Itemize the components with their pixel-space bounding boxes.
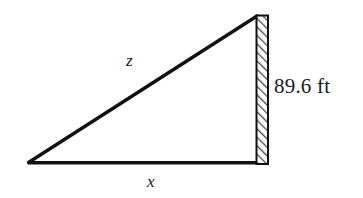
hatched-wall — [257, 16, 269, 165]
figure-container: z x 89.6 ft — [0, 0, 363, 198]
hypotenuse-label: z — [126, 52, 133, 69]
hypotenuse-line — [29, 16, 258, 163]
height-measurement-label: 89.6 ft — [274, 76, 330, 97]
base-label: x — [147, 173, 155, 190]
right-triangle-figure — [0, 0, 363, 198]
